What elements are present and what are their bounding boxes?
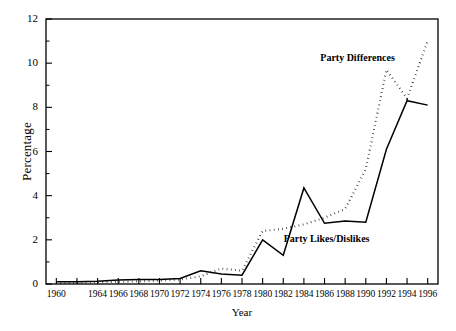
x-tick-label: 1996 [408, 289, 448, 299]
series-label: Party Differences [320, 52, 395, 63]
series-line-party-likes-dislikes [56, 101, 427, 282]
series-line-party-differences [56, 41, 427, 283]
x-axis-title: Year [46, 306, 438, 318]
y-tick-label: 12 [12, 13, 38, 24]
chart-figure: Percentage Year 024681012 19601964196619… [0, 0, 456, 331]
y-tick-label: 0 [12, 278, 38, 289]
y-tick-label: 2 [12, 234, 38, 245]
y-tick-label: 10 [12, 57, 38, 68]
plot-area [0, 0, 456, 331]
x-tick-label: 1960 [36, 289, 76, 299]
y-tick-label: 6 [12, 146, 38, 157]
y-tick-label: 8 [12, 101, 38, 112]
y-tick-label: 4 [12, 190, 38, 201]
data-series [56, 41, 427, 283]
series-label: Party Likes/Dislikes [284, 233, 370, 244]
